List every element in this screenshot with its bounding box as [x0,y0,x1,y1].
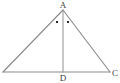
angle-marker-right-dot [67,21,69,23]
vertex-label-a: A [60,0,67,10]
triangle-diagram-canvas: A D C [0,0,120,83]
vertex-label-d: D [60,73,67,83]
angle-marker-left-dot [56,21,58,23]
geometry-figure: A D C [0,0,120,83]
vertex-label-c: C [112,68,118,78]
